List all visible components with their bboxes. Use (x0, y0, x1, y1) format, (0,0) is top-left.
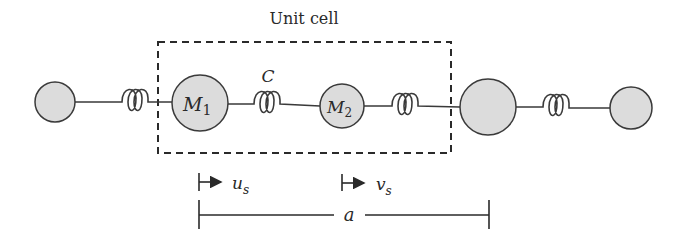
displacement-v: vs (342, 174, 392, 198)
mass-left-neighbor (35, 82, 75, 122)
mass-right-neighbor-small (610, 87, 652, 129)
lattice-constant-label: a (344, 204, 355, 225)
spring-4 (516, 94, 610, 115)
lattice-constant: a (199, 200, 489, 229)
displacement-u-label: us (232, 173, 249, 197)
spring-2 (228, 91, 320, 112)
monatomic-chain-diagram: Unit cell M1 M2 C us vs a (0, 0, 685, 243)
spring-3 (364, 93, 460, 114)
unit-cell-title: Unit cell (269, 9, 338, 28)
displacement-v-label: vs (376, 174, 392, 198)
mass-right-neighbor-large (460, 79, 516, 135)
spring-constant-label: C (261, 66, 274, 86)
displacement-u: us (199, 173, 249, 197)
